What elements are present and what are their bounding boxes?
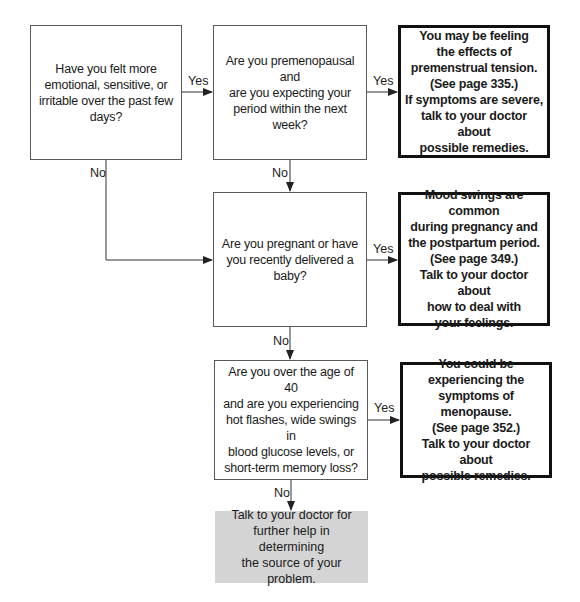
question-text: Are you premenopausal and are you expect… — [220, 53, 360, 133]
terminal-box-see-doctor: Talk to your doctor for further help in … — [215, 511, 368, 583]
question-box-premenopausal: Are you premenopausal and are you expect… — [213, 25, 367, 160]
question-box-over-40: Are you over the age of 40 and are you e… — [214, 360, 368, 480]
outcome-box-pregnancy-mood-swings: Mood swings are common during pregnancy … — [398, 192, 550, 326]
outcome-text: You may be feeling the effects of premen… — [405, 28, 543, 156]
question-text: Are you over the age of 40 and are you e… — [221, 364, 361, 476]
outcome-box-premenstrual-tension: You may be feeling the effects of premen… — [398, 25, 550, 158]
outcome-text: Mood swings are common during pregnancy … — [405, 187, 543, 331]
edge-label-yes: Yes — [188, 74, 208, 88]
edge-label-no: No — [274, 486, 290, 500]
question-text: Are you pregnant or have you recently de… — [222, 236, 358, 284]
edge-label-no: No — [273, 334, 289, 348]
question-box-pregnant: Are you pregnant or have you recently de… — [213, 192, 367, 327]
question-text: Have you felt more emotional, sensitive,… — [39, 61, 173, 125]
terminal-text: Talk to your doctor for further help in … — [221, 507, 362, 587]
edge-label-yes: Yes — [373, 242, 393, 256]
edge-label-yes: Yes — [374, 401, 394, 415]
edge-label-no: No — [90, 166, 106, 180]
outcome-text: You could be experiencing the symptoms o… — [407, 356, 545, 484]
edge-label-yes: Yes — [373, 74, 393, 88]
outcome-box-menopause: You could be experiencing the symptoms o… — [400, 362, 552, 478]
question-box-mood-change: Have you felt more emotional, sensitive,… — [30, 25, 182, 160]
edge-label-no: No — [272, 166, 288, 180]
